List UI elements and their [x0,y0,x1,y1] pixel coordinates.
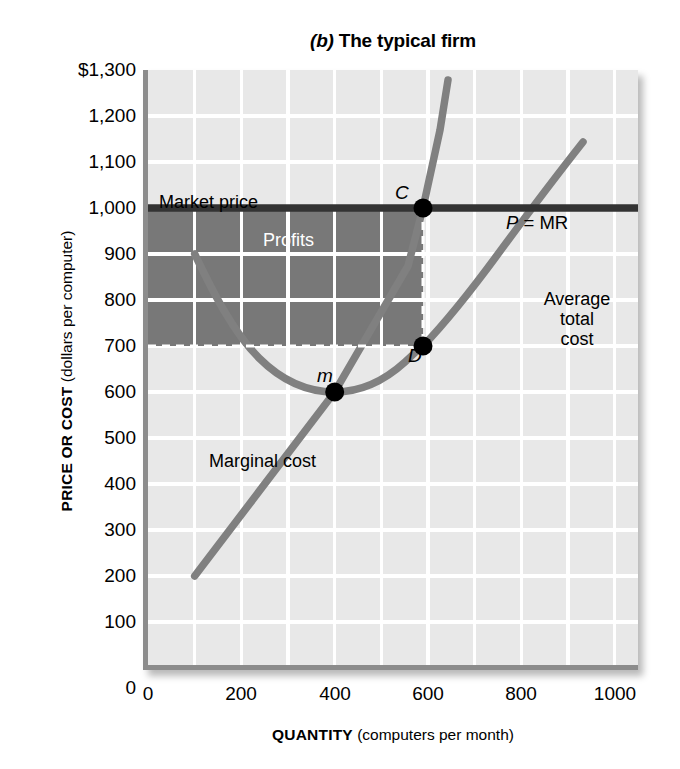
x-tick-800: 800 [476,683,566,705]
x-tick-0: 0 [103,683,193,705]
chart-figure: (b) The typical firm PRICE OR COST (doll… [0,0,680,769]
x-axis-title: QUANTITY (computers per month) [143,726,643,744]
x-axis-title-strong: QUANTITY [272,726,353,743]
x-tick-1000: 1000 [570,683,660,705]
x-tick-labels: 0 200 400 600 800 1000 [0,0,680,769]
x-axis-title-paren: (computers per month) [353,726,514,743]
x-tick-200: 200 [196,683,286,705]
x-tick-400: 400 [290,683,380,705]
x-tick-600: 600 [383,683,473,705]
